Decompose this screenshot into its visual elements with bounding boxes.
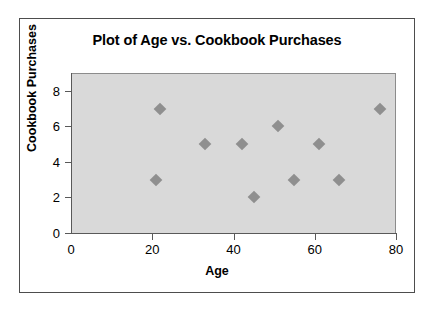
y-axis-title: Cookbook Purchases — [25, 8, 39, 168]
y-tick-label: 2 — [30, 190, 60, 205]
x-tick-label: 80 — [376, 242, 416, 257]
y-tick-mark — [65, 91, 71, 92]
y-axis-line — [71, 73, 72, 234]
x-tick-label: 0 — [51, 242, 91, 257]
y-tick-mark — [65, 233, 71, 234]
x-tick-mark — [315, 234, 316, 240]
x-tick-label: 40 — [214, 242, 254, 257]
x-tick-label: 60 — [295, 242, 335, 257]
y-tick-mark — [65, 126, 71, 127]
y-tick-mark — [65, 197, 71, 198]
x-axis-title: Age — [20, 264, 414, 278]
y-tick-mark — [65, 162, 71, 163]
x-tick-mark — [396, 234, 397, 240]
chart-title: Plot of Age vs. Cookbook Purchases — [20, 32, 414, 48]
x-tick-label: 20 — [132, 242, 172, 257]
y-tick-label: 0 — [30, 226, 60, 241]
chart-frame: Plot of Age vs. Cookbook Purchases 02468… — [19, 18, 415, 293]
x-tick-mark — [152, 234, 153, 240]
plot-area — [71, 73, 396, 233]
x-tick-mark — [234, 234, 235, 240]
